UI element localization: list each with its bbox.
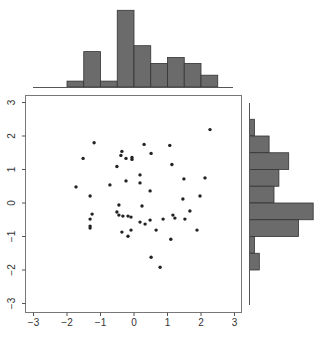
right-marginal-histogram <box>250 119 314 270</box>
histogram-bar <box>117 10 134 87</box>
top-marginal-histogram <box>67 10 218 87</box>
data-point <box>140 204 143 207</box>
data-point <box>88 217 91 220</box>
data-point <box>124 157 127 160</box>
histogram-bar <box>250 186 275 203</box>
histogram-bar <box>250 119 255 136</box>
histogram-bar <box>67 81 84 87</box>
y-tick-label: 1 <box>6 166 17 172</box>
data-point <box>138 173 141 176</box>
histogram-bar <box>250 203 314 220</box>
x-tick-label: −3 <box>28 317 40 328</box>
data-point <box>188 209 191 212</box>
data-point <box>74 185 77 188</box>
data-point <box>154 228 157 231</box>
y-tick-label: −1 <box>6 230 17 242</box>
data-point <box>158 266 161 269</box>
histogram-bar <box>184 63 201 87</box>
data-point <box>90 212 93 215</box>
data-point <box>169 238 172 241</box>
data-point <box>117 213 120 216</box>
data-point <box>149 256 152 259</box>
data-point <box>120 150 123 153</box>
data-point <box>203 176 206 179</box>
data-point <box>195 228 198 231</box>
data-point <box>143 222 146 225</box>
data-point <box>148 189 151 192</box>
histogram-bar <box>151 63 168 87</box>
plot-frame <box>26 96 242 313</box>
y-tick-label: 3 <box>6 99 17 105</box>
data-point <box>115 165 118 168</box>
x-tick-label: 1 <box>165 317 171 328</box>
data-point <box>108 183 111 186</box>
x-tick-label: 2 <box>198 317 204 328</box>
data-point <box>117 203 120 206</box>
data-point <box>88 194 91 197</box>
histogram-bar <box>250 136 270 153</box>
data-point <box>198 194 201 197</box>
histogram-bar <box>84 52 101 87</box>
data-point <box>173 216 176 219</box>
data-point <box>121 214 124 217</box>
scatter-points <box>74 128 211 269</box>
data-point <box>138 220 141 223</box>
data-point <box>92 141 95 144</box>
data-point <box>170 163 173 166</box>
y-axis: −3−2−10123 <box>6 99 26 309</box>
y-tick-label: 2 <box>6 133 17 139</box>
data-point <box>183 217 186 220</box>
histogram-bar <box>250 253 260 270</box>
histogram-bar <box>250 153 289 170</box>
data-point <box>129 215 132 218</box>
histogram-bar <box>250 220 299 237</box>
x-tick-label: −2 <box>61 317 73 328</box>
data-point <box>142 143 145 146</box>
data-point <box>129 228 132 231</box>
x-tick-label: 3 <box>232 317 238 328</box>
data-point <box>149 152 152 155</box>
data-point <box>182 177 185 180</box>
data-point <box>124 179 127 182</box>
scatter-with-marginal-histograms: −3−2−10123 −3−2−10123 <box>0 0 324 338</box>
y-tick-label: 0 <box>6 200 17 206</box>
data-point <box>138 181 141 184</box>
data-point <box>130 158 133 161</box>
histogram-bar <box>250 237 255 254</box>
data-point <box>119 154 122 157</box>
data-point <box>126 214 129 217</box>
data-point <box>88 226 91 229</box>
data-point <box>168 144 171 147</box>
data-point <box>208 128 211 131</box>
histogram-bar <box>101 81 118 87</box>
y-tick-label: −3 <box>6 297 17 309</box>
histogram-bar <box>134 46 151 87</box>
x-tick-label: −1 <box>95 317 107 328</box>
x-tick-label: 0 <box>131 317 137 328</box>
data-point <box>161 217 164 220</box>
data-point <box>171 213 174 216</box>
data-point <box>81 157 84 160</box>
data-point <box>120 230 123 233</box>
histogram-bar <box>168 58 185 88</box>
histogram-bar <box>201 75 218 87</box>
data-point <box>115 210 118 213</box>
data-point <box>181 197 184 200</box>
data-point <box>126 235 129 238</box>
x-axis: −3−2−10123 <box>28 313 238 329</box>
y-tick-label: −2 <box>6 264 17 276</box>
histogram-bar <box>250 170 279 187</box>
data-point <box>148 218 151 221</box>
